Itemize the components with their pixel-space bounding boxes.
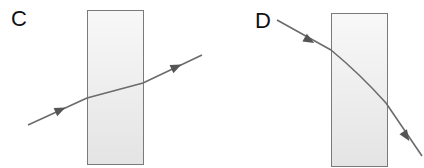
glass-block-d (332, 14, 388, 167)
arrow-icon (399, 129, 413, 143)
diagram-c: C (0, 0, 212, 168)
glass-block-c (88, 11, 144, 165)
diagram-d: D (212, 0, 424, 168)
arrow-icon (170, 60, 184, 73)
refraction-diagram-c (0, 0, 212, 168)
arrow-icon (54, 103, 68, 116)
refraction-diagram-d (212, 0, 424, 168)
